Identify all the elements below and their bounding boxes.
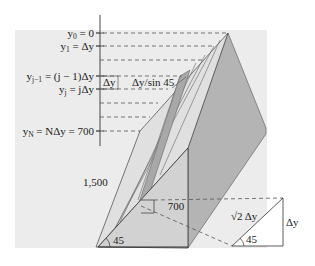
slab-strip-diagram: y0 = 0 y1 = Δy yj−1 = (j − 1)Δy yj = jΔy… [0,0,315,266]
svg-text:y1 = Δy: y1 = Δy [60,40,94,54]
svg-text:yN = NΔy = 700: yN = NΔy = 700 [23,125,95,139]
strip-length-label: Δy/sin 45 [132,76,175,88]
axis-label-yN: yN = NΔy = 700 [23,125,95,139]
inset-hypotenuse-label: √2 Δy [231,210,258,222]
height-label: 700 [168,200,185,212]
slant-length-label: 1,500 [83,176,108,188]
inset-angle-label: 45 [246,233,258,245]
base-angle-label: 45 [113,234,125,246]
inset-side-label: Δy [286,216,299,228]
svg-text:y0 = 0: y0 = 0 [68,27,95,41]
delta-y-box-label: Δy [103,76,116,88]
svg-text:yj = jΔy: yj = jΔy [59,83,94,97]
axis-label-yj: yj = jΔy [59,83,94,97]
axis-label-y0: y0 = 0 [68,27,95,41]
axis-label-y1: y1 = Δy [60,40,94,54]
